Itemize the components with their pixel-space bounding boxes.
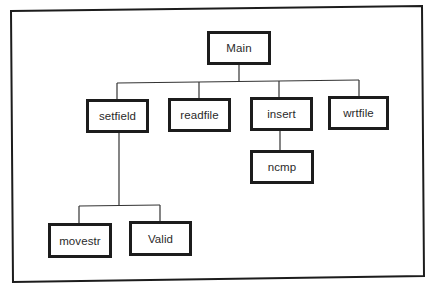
node-setfield: setfield: [86, 99, 149, 133]
node-main: Main: [207, 31, 271, 65]
diagram-canvas: Main setfield readfile insert wrtfile nc…: [0, 0, 427, 285]
node-wrtfile: wrtfile: [328, 96, 389, 130]
node-label: ncmp: [268, 161, 297, 173]
node-label: movestr: [59, 235, 101, 247]
node-label: Valid: [148, 233, 173, 245]
node-ncmp: ncmp: [250, 150, 314, 184]
node-label: setfield: [99, 110, 136, 122]
node-movestr: movestr: [48, 223, 112, 258]
node-label: readfile: [180, 109, 219, 121]
node-insert: insert: [250, 97, 313, 131]
node-label: wrtfile: [343, 107, 374, 119]
node-valid: Valid: [129, 221, 192, 256]
node-readfile: readfile: [168, 98, 231, 132]
node-label: Main: [226, 42, 251, 54]
connector-level2-bus: [79, 205, 160, 206]
connector-level1-bus: [117, 80, 359, 83]
node-label: insert: [267, 108, 296, 120]
